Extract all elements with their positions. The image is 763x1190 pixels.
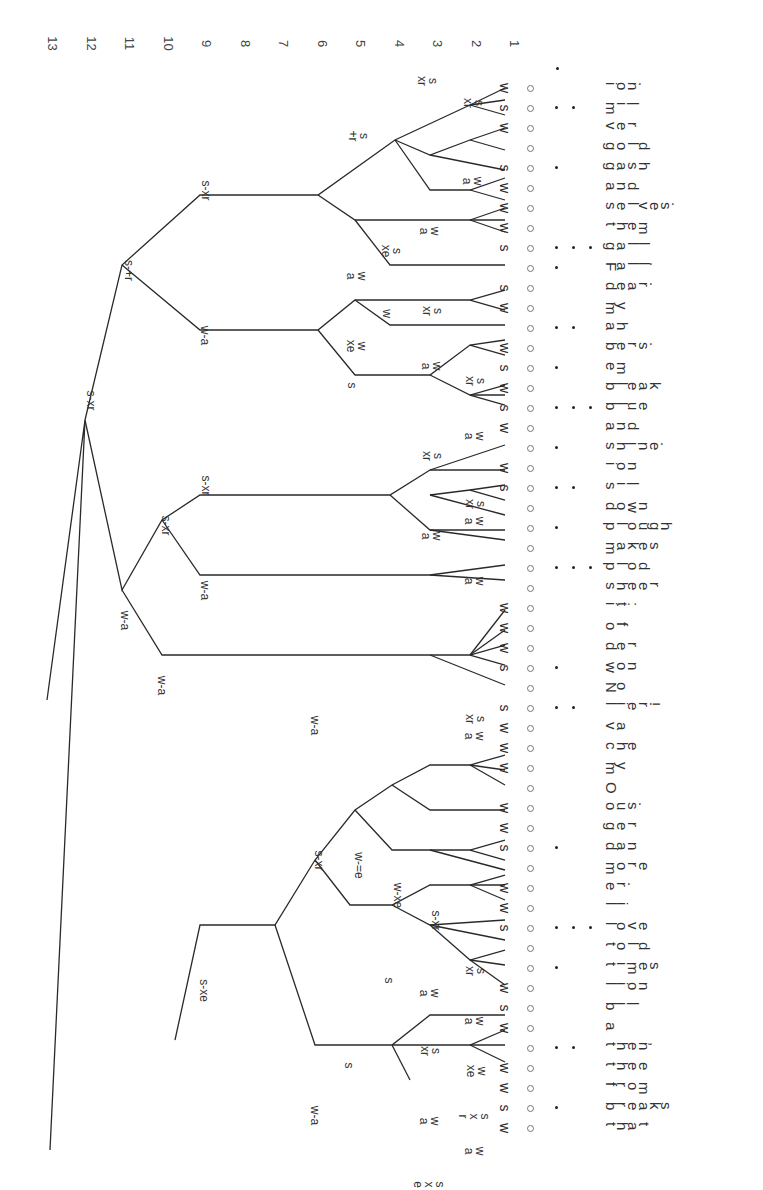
syllable-row: wof (0, 618, 763, 638)
syllable-row: wche (0, 738, 763, 758)
syllable-word: and (606, 419, 639, 436)
open-circle-marker (527, 1105, 534, 1112)
syllable-row: shine. (0, 438, 763, 458)
syllable-word: gash (606, 159, 650, 176)
open-circle-marker (527, 605, 534, 612)
leaf-stress-label: s (497, 400, 513, 416)
syllable-row: then, (0, 1038, 763, 1058)
syllable-row: gold (0, 138, 763, 158)
grid-dot (555, 1106, 558, 1109)
leaf-stress-label: w (497, 1020, 513, 1036)
leaf-stress-label: w (497, 300, 513, 316)
open-circle-marker (527, 705, 534, 712)
syllable-word: bleak (606, 379, 661, 396)
leaf-stress-label: w (497, 340, 513, 356)
syllable-word: ver (606, 119, 639, 136)
open-circle-marker (527, 265, 534, 272)
syllable-row: slove (0, 918, 763, 938)
syllable-row: sdear. (0, 278, 763, 298)
syllable-row: smil (0, 98, 763, 118)
syllable-word: ion (606, 459, 639, 476)
syllable-word: my (606, 299, 628, 316)
open-circle-marker (527, 945, 534, 952)
leaf-stress-label: w (497, 1120, 513, 1136)
grid-dot (572, 406, 575, 409)
syllable-word: va (606, 719, 628, 736)
syllable-word: gold (606, 139, 650, 156)
syllable-word: sheer (606, 579, 661, 596)
syllable-word: of (606, 619, 628, 636)
syllable-word: my (606, 759, 628, 776)
open-circle-marker (527, 165, 534, 172)
open-circle-marker (527, 425, 534, 432)
syllable-row: more (0, 858, 763, 878)
syllable-row: down (0, 498, 763, 518)
leaf-stress-label: w (497, 900, 513, 916)
syllable-row: wli (0, 898, 763, 918)
syllable-word: plough (606, 519, 672, 536)
open-circle-marker (527, 765, 534, 772)
grid-dot (555, 406, 558, 409)
syllable-word: from (606, 1079, 650, 1096)
syllable-row: wand (0, 418, 763, 438)
grid-dot (572, 1046, 575, 1049)
grid-dot (555, 526, 558, 529)
syllable-word: mil (606, 99, 639, 116)
syllable-row: wselves. (0, 198, 763, 218)
open-circle-marker (527, 545, 534, 552)
syllable-word: plod (606, 559, 650, 576)
grid-dot (555, 366, 558, 369)
leaf-stress-label: w (497, 180, 513, 196)
syllable-word: li (606, 899, 628, 916)
syllable-row: ssil (0, 478, 763, 498)
open-circle-marker (527, 505, 534, 512)
leaf-stress-label: w (497, 380, 513, 396)
syllable-row: sbreaks (0, 1098, 763, 1118)
open-circle-marker (527, 245, 534, 252)
open-circle-marker (527, 1085, 534, 1092)
syllable-word: shine. (606, 439, 672, 456)
leaf-stress-label: s (497, 1100, 513, 1116)
syllable-word: more (606, 859, 650, 876)
leaf-stress-label: s (497, 160, 513, 176)
syllable-word: it: (606, 599, 639, 616)
syllable-word: gall (606, 239, 650, 256)
open-circle-marker (527, 205, 534, 212)
syllable-row: wous. (0, 798, 763, 818)
grid-dot (555, 926, 558, 929)
open-circle-marker (527, 445, 534, 452)
leaf-stress-label: w (497, 120, 513, 136)
open-circle-marker (527, 725, 534, 732)
syllable-row: wthee (0, 1058, 763, 1078)
leaf-stress-label: w (497, 1080, 513, 1096)
syllable-word: Fall. (606, 259, 661, 276)
syllable-word: No (606, 679, 628, 696)
grid-dot (555, 106, 558, 109)
leaf-stress-label: w (497, 740, 513, 756)
syllable-word: er. (606, 879, 639, 896)
syllable-word: then, (606, 1039, 661, 1056)
open-circle-marker (527, 465, 534, 472)
open-circle-marker (527, 785, 534, 792)
grid-dot (555, 706, 558, 709)
syllable-row: wand (0, 178, 763, 198)
syllable-row: wbleak (0, 378, 763, 398)
syllable-row: wion. (0, 78, 763, 98)
syllable-word: dear. (606, 279, 661, 296)
leaf-stress-label: w (497, 980, 513, 996)
syllable-row: wthem (0, 218, 763, 238)
open-circle-marker (527, 1005, 534, 1012)
open-circle-marker (527, 345, 534, 352)
leaf-stress-label: s (497, 240, 513, 256)
open-circle-marker (527, 865, 534, 872)
syllable-row: O (0, 778, 763, 798)
leaf-stress-label: w (497, 620, 513, 636)
syllable-word: love (606, 919, 650, 936)
open-circle-marker (527, 185, 534, 192)
leaf-stress-label: w (497, 880, 513, 896)
leaf-stress-label: w (497, 760, 513, 776)
leaf-stress-label: w (497, 80, 513, 96)
leaf-stress-label: s (497, 1000, 513, 1016)
grid-dot (572, 706, 575, 709)
node-label: w a (463, 1147, 485, 1156)
